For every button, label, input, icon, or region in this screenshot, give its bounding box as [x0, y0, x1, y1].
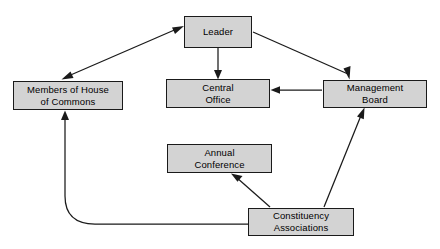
organisation-diagram: Leader Members of House of Commons Centr… — [0, 0, 440, 249]
arrow-head-to-central-office-left — [271, 86, 281, 94]
node-management-board-line1: Management — [347, 82, 403, 94]
arrow-head-to-management-board-2 — [357, 108, 365, 120]
node-central-office-line1: Central — [202, 82, 233, 94]
node-management-board-line2: Board — [362, 94, 388, 106]
node-annual-conference-line1: Annual — [204, 147, 234, 159]
node-constituency-associations[interactable]: Constituency Associations — [248, 208, 354, 236]
arrow-head-to-leader — [172, 26, 184, 34]
edge-leader-management-board — [253, 32, 351, 80]
edge-members-leader — [62, 26, 185, 80]
node-members-line2: of Commons — [41, 96, 96, 108]
node-management-board[interactable]: Management Board — [323, 80, 427, 108]
edge-leader-central-office — [214, 48, 222, 80]
node-annual-conference[interactable]: Annual Conference — [167, 144, 272, 173]
edge-management-board-central-office — [271, 86, 323, 94]
node-members-line1: Members of House — [27, 84, 109, 96]
node-leader[interactable]: Leader — [184, 16, 252, 48]
node-members-of-house-of-commons[interactable]: Members of House of Commons — [13, 81, 123, 110]
node-central-office[interactable]: Central Office — [166, 79, 270, 108]
node-annual-conference-line2: Conference — [194, 159, 244, 171]
arrow-head-to-members — [62, 72, 74, 80]
edge-constituency-annual-conference — [231, 174, 270, 208]
node-leader-line1: Leader — [203, 26, 233, 38]
edge-constituency-management-board — [324, 108, 365, 208]
node-central-office-line2: Office — [205, 94, 230, 106]
arrow-head-to-members-2 — [61, 111, 69, 121]
node-constituency-associations-line1: Constituency — [273, 210, 329, 222]
node-constituency-associations-line2: Associations — [274, 222, 329, 234]
